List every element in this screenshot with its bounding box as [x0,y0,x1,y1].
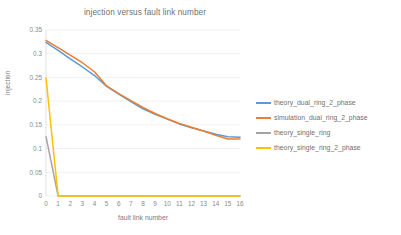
x-tick-label: 14 [212,200,220,207]
x-tick-label: 5 [105,200,109,207]
y-axis-tick-labels: 00.050.10.150.20.250.30.35 [30,26,43,199]
data-series [46,40,240,196]
x-tick-label: 16 [236,200,244,207]
y-tick-label: 0.2 [33,97,42,104]
series-line [46,78,240,196]
y-tick-label: 0.3 [33,50,42,57]
x-tick-label: 1 [56,200,60,207]
series-line [46,42,240,137]
legend-color-swatch [256,147,271,149]
x-tick-label: 12 [188,200,196,207]
x-tick-label: 3 [81,200,85,207]
legend-item[interactable]: theory_dual_ring_2_phase [256,95,401,110]
series-line [46,40,240,139]
legend-item[interactable]: simulation_dual_ring_2_phase [256,110,401,125]
y-tick-label: 0 [38,192,42,199]
legend-item-label: theory_single_ring [274,129,330,136]
legend-color-swatch [256,132,271,134]
x-tick-label: 2 [68,200,72,207]
legend-item-label: theory_single_ring_2_phase [274,144,361,151]
x-tick-label: 4 [93,200,97,207]
x-tick-label: 9 [153,200,157,207]
y-tick-label: 0.35 [30,26,43,33]
x-tick-label: 15 [224,200,232,207]
legend-item[interactable]: theory_single_ring_2_phase [256,140,401,155]
gridlines [46,30,240,196]
y-tick-label: 0.15 [30,121,43,128]
series-line [46,137,240,196]
chart-legend: theory_dual_ring_2_phasesimulation_dual_… [256,95,401,155]
legend-item[interactable]: theory_single_ring [256,125,401,140]
x-axis-title: fault link number [46,214,240,221]
x-tick-label: 8 [141,200,145,207]
x-tick-label: 11 [176,200,183,207]
legend-color-swatch [256,102,271,104]
legend-color-swatch [256,117,271,119]
x-tick-label: 6 [117,200,121,207]
x-tick-label: 10 [164,200,172,207]
y-tick-label: 0.05 [30,169,43,176]
legend-item-label: simulation_dual_ring_2_phase [274,114,368,121]
x-tick-label: 7 [129,200,133,207]
x-axis-tick-labels: 012345678910111213141516 [44,200,244,207]
y-tick-label: 0.1 [33,145,42,152]
y-tick-label: 0.25 [30,74,43,81]
legend-item-label: theory_dual_ring_2_phase [274,99,356,106]
x-tick-label: 13 [200,200,208,207]
x-tick-label: 0 [44,200,48,207]
chart-container: injection versus fault link number injec… [0,0,401,235]
